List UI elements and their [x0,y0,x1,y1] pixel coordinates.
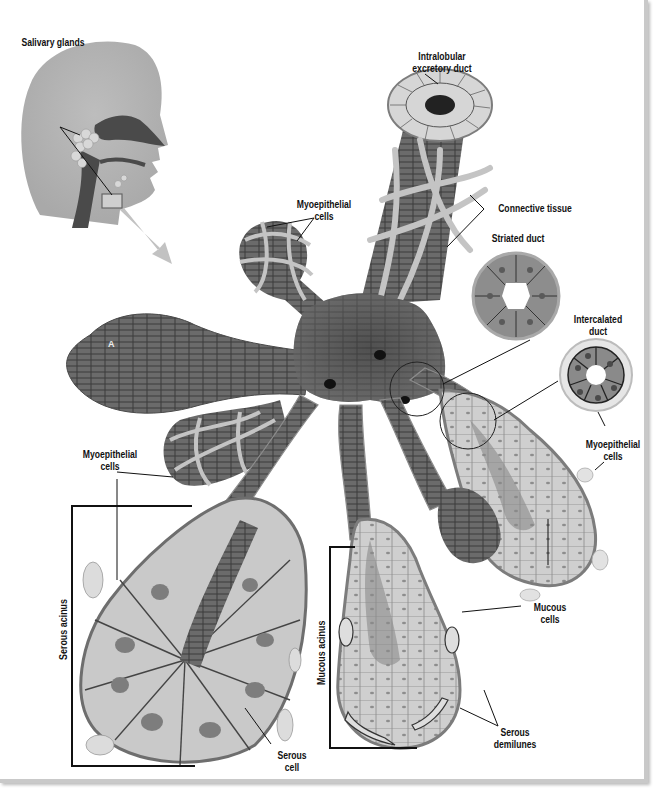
label-serous-acinus: Serous acinus [57,599,69,660]
label-line-2: cells [291,211,357,223]
intercalated-duct-section [560,339,632,411]
label-text: Mucous acinus [315,621,327,685]
label-striated-duct: Striated duct [485,233,551,245]
label-line-1: Serous [267,750,316,762]
acinus-a [67,314,310,413]
serous-acinus [81,498,306,765]
label-line-2: cells [77,461,143,473]
zoom-arrow [120,208,172,264]
label-line-1: Serous [486,727,543,739]
label-line-1: Mucous [525,602,574,614]
label-myoepithelial-left: Myoepithelial cells [77,449,143,472]
label-line-2: duct [569,326,626,338]
label-text: Striated duct [492,232,545,244]
label-intercalated-duct: Intercalated duct [569,314,626,337]
label-line-2: excretory duct [401,63,483,75]
label-serous-demilunes: Serous demilunes [486,727,543,750]
central-duct-hub [294,293,446,404]
inset-box [102,194,122,208]
label-line-2: cells [525,614,574,626]
label-text: Salivary glands [21,36,84,48]
label-connective-tissue: Connective tissue [490,203,580,215]
label-line-1: Myoepithelial [580,439,646,451]
label-line-1: Myoepithelial [77,449,143,461]
label-myoepithelial-top: Myoepithelial cells [291,199,357,222]
head-inset [21,41,172,264]
label-mucous-acinus: Mucous acinus [315,621,327,685]
label-mucous-cells: Mucous cells [525,602,574,625]
salivary-gland-illustration [0,0,659,796]
label-intralobular-duct: Intralobular excretory duct [401,51,483,74]
marker-a: A [108,339,115,349]
label-serous-cell: Serous cell [267,750,316,773]
label-line-2: demilunes [486,739,543,751]
striated-duct-section [473,253,559,339]
label-text: Connective tissue [498,202,572,214]
label-myoepithelial-right: Myoepithelial cells [580,439,646,462]
cropped-caption [0,789,659,796]
label-line-1: Intralobular [401,51,483,63]
label-salivary-glands: Salivary glands [21,37,70,49]
label-line-1: Myoepithelial [291,199,357,211]
label-text: Serous acinus [57,599,69,660]
label-line-1: Intercalated [569,314,626,326]
label-line-2: cells [580,451,646,463]
label-line-2: cell [267,762,316,774]
mucous-acinus [338,519,460,748]
